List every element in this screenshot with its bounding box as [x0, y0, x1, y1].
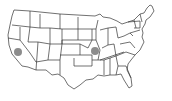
state-outlines — [8, 5, 154, 89]
marker-california[interactable] — [14, 48, 22, 56]
marker-missouri[interactable] — [91, 47, 99, 55]
us-map — [0, 0, 172, 101]
